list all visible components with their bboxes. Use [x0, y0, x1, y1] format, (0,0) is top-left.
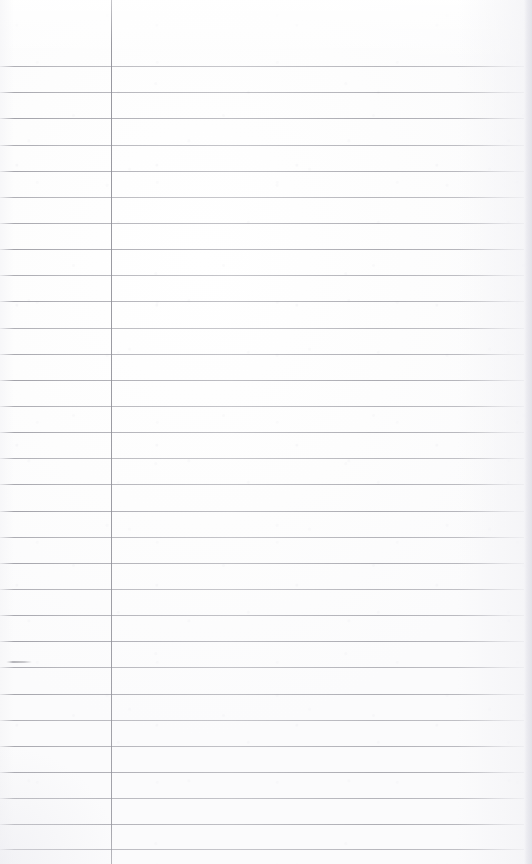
writing-area[interactable] [111, 66, 524, 849]
notepad-page [0, 0, 532, 864]
pencil-smudge-mark [6, 661, 32, 663]
ruled-line [0, 849, 524, 850]
